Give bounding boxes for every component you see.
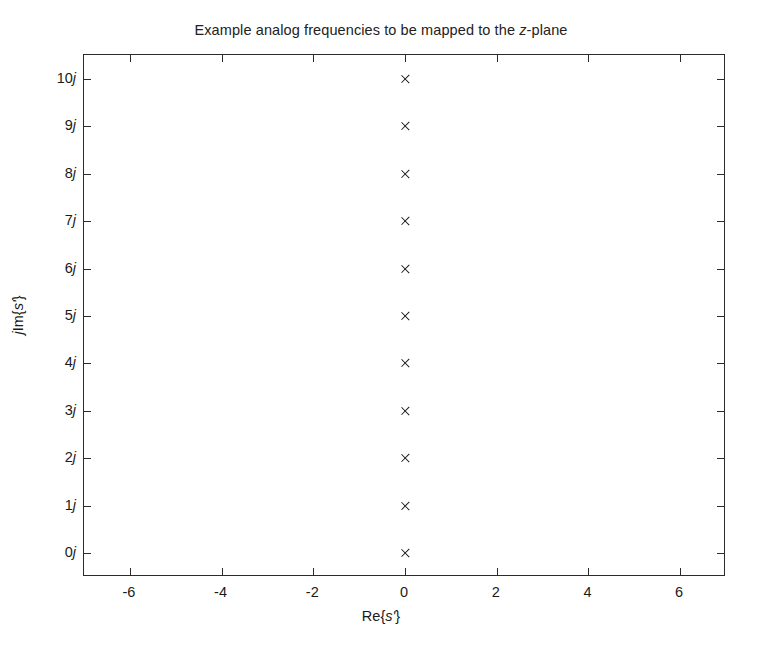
y-tick-label-number: 6 <box>65 260 73 276</box>
y-tick-label: 9j <box>65 117 76 133</box>
x-tick-bottom <box>680 568 681 575</box>
x-tick-label: -6 <box>122 584 135 600</box>
y-tick-label-number: 7 <box>65 212 73 228</box>
y-tick-label-number: 3 <box>65 402 73 418</box>
y-tick-right <box>717 269 724 270</box>
data-point-marker <box>400 73 411 84</box>
y-tick-label-number: 1 <box>65 497 73 513</box>
x-axis-label: Re{s'} <box>0 608 762 624</box>
x-tick-top <box>405 55 406 62</box>
x-tick-label: 4 <box>583 584 591 600</box>
x-tick-label: 2 <box>492 584 500 600</box>
y-tick-label: 2j <box>65 449 76 465</box>
chart-title: Example analog frequencies to be mapped … <box>0 22 762 38</box>
y-tick-label: 0j <box>65 544 76 560</box>
figure-canvas: Example analog frequencies to be mapped … <box>0 0 762 652</box>
x-tick-label: 0 <box>400 584 408 600</box>
data-point-marker <box>400 548 411 559</box>
y-tick-label: 6j <box>65 260 76 276</box>
y-tick-left <box>84 458 91 459</box>
y-tick-left <box>84 411 91 412</box>
x-tick-label: -2 <box>306 584 319 600</box>
x-tick-bottom <box>588 568 589 575</box>
y-tick-label-unit: j <box>73 402 76 418</box>
y-tick-label-unit: j <box>73 544 76 560</box>
chart-title-part-1: z <box>519 22 526 38</box>
y-tick-label: 4j <box>65 354 76 370</box>
x-axis-label-part-1: s' <box>385 608 395 624</box>
y-tick-left <box>84 269 91 270</box>
data-point-marker <box>400 311 411 322</box>
x-tick-bottom <box>313 568 314 575</box>
data-point-marker <box>400 358 411 369</box>
data-point-marker <box>400 453 411 464</box>
y-tick-label-unit: j <box>73 497 76 513</box>
y-tick-right <box>717 363 724 364</box>
y-tick-label-unit: j <box>73 354 76 370</box>
y-tick-label: 5j <box>65 307 76 323</box>
y-axis-label-part-3: } <box>10 295 26 300</box>
data-point-marker <box>400 263 411 274</box>
y-tick-label-unit: j <box>73 449 76 465</box>
y-tick-label: 10j <box>57 70 76 86</box>
y-tick-left <box>84 79 91 80</box>
y-tick-label-number: 10 <box>57 70 73 86</box>
y-axis-label: jIm{s'} <box>10 295 26 334</box>
axes-box <box>83 54 725 576</box>
y-tick-label-number: 4 <box>65 354 73 370</box>
x-tick-top <box>680 55 681 62</box>
y-tick-right <box>717 79 724 80</box>
chart-title-part-2: -plane <box>527 22 568 38</box>
y-tick-left <box>84 221 91 222</box>
y-tick-right <box>717 316 724 317</box>
y-tick-left <box>84 553 91 554</box>
plot-area <box>84 55 724 575</box>
x-tick-label: -4 <box>214 584 227 600</box>
data-point-marker <box>400 216 411 227</box>
y-tick-right <box>717 553 724 554</box>
y-tick-label-number: 2 <box>65 449 73 465</box>
y-tick-label-unit: j <box>73 212 76 228</box>
y-tick-left <box>84 174 91 175</box>
x-tick-bottom <box>497 568 498 575</box>
x-tick-top <box>222 55 223 62</box>
y-tick-label-unit: j <box>73 165 76 181</box>
y-tick-right <box>717 411 724 412</box>
y-axis-label-part-0: j <box>10 331 26 334</box>
y-tick-label-number: 5 <box>65 307 73 323</box>
y-tick-label: 8j <box>65 165 76 181</box>
y-axis-label-part-2: s' <box>10 300 26 310</box>
data-point-marker <box>400 121 411 132</box>
data-point-marker <box>400 405 411 416</box>
y-tick-label: 1j <box>65 497 76 513</box>
y-tick-label-unit: j <box>73 70 76 86</box>
y-tick-left <box>84 506 91 507</box>
y-axis-label-part-1: Im{ <box>10 310 26 331</box>
x-tick-bottom <box>222 568 223 575</box>
x-tick-top <box>130 55 131 62</box>
x-tick-bottom <box>405 568 406 575</box>
y-tick-label: 3j <box>65 402 76 418</box>
data-point-marker <box>400 500 411 511</box>
x-tick-top <box>313 55 314 62</box>
x-tick-top <box>497 55 498 62</box>
y-tick-label-number: 0 <box>65 544 73 560</box>
y-tick-label-number: 9 <box>65 117 73 133</box>
y-tick-label: 7j <box>65 212 76 228</box>
chart-title-part-0: Example analog frequencies to be mapped … <box>194 22 519 38</box>
y-tick-right <box>717 506 724 507</box>
x-axis-label-part-0: Re{ <box>362 608 385 624</box>
y-tick-left <box>84 126 91 127</box>
y-tick-right <box>717 458 724 459</box>
y-tick-label-number: 8 <box>65 165 73 181</box>
y-tick-right <box>717 221 724 222</box>
data-point-marker <box>400 168 411 179</box>
x-tick-label: 6 <box>675 584 683 600</box>
x-axis-label-part-2: } <box>395 608 400 624</box>
y-tick-label-unit: j <box>73 307 76 323</box>
y-tick-label-unit: j <box>73 260 76 276</box>
y-axis-label-container: jIm{s'} <box>0 54 36 576</box>
y-tick-left <box>84 363 91 364</box>
y-tick-left <box>84 316 91 317</box>
y-tick-right <box>717 174 724 175</box>
